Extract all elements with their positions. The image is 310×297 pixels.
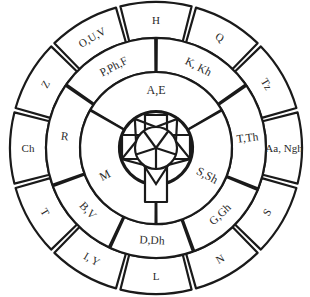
wheel-svg: HQTzAa, NghSNLI, YTChZO,U,VK, KhT,ThG,Gh… bbox=[0, 0, 310, 297]
inner-segment-label: A,E bbox=[147, 83, 166, 97]
outer-segment-label: Aa, Ngh bbox=[265, 142, 303, 154]
outer-segment-label: Ch bbox=[22, 142, 35, 154]
outer-segment-label: L bbox=[153, 270, 160, 282]
middle-segment-label: D,Dh bbox=[139, 233, 165, 247]
letter-wheel-diagram: HQTzAa, NghSNLI, YTChZO,U,VK, KhT,ThG,Gh… bbox=[0, 0, 310, 297]
outer-segment-label: H bbox=[152, 14, 160, 26]
